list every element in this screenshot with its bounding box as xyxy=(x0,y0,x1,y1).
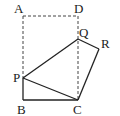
label-P: P xyxy=(13,70,20,85)
segment-PQ xyxy=(23,39,78,78)
solid-lines xyxy=(23,39,99,100)
label-Q: Q xyxy=(79,25,89,40)
label-C: C xyxy=(73,102,82,116)
segment-PC xyxy=(23,78,78,100)
label-R: R xyxy=(101,36,110,51)
geometry-figure: A D Q R P B C xyxy=(0,0,120,116)
label-B: B xyxy=(17,102,26,116)
segment-RC xyxy=(78,49,99,100)
segment-QR xyxy=(78,39,99,49)
label-A: A xyxy=(14,1,24,16)
label-D: D xyxy=(74,1,83,16)
